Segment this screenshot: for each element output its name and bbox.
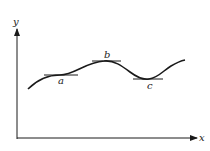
- point-label-a: a: [58, 75, 64, 86]
- diagram-canvas: y x a b c: [0, 0, 210, 151]
- y-axis-label: y: [12, 16, 19, 27]
- x-axis-label: x: [199, 132, 205, 143]
- point-label-c: c: [147, 80, 153, 91]
- point-label-b: b: [104, 49, 110, 60]
